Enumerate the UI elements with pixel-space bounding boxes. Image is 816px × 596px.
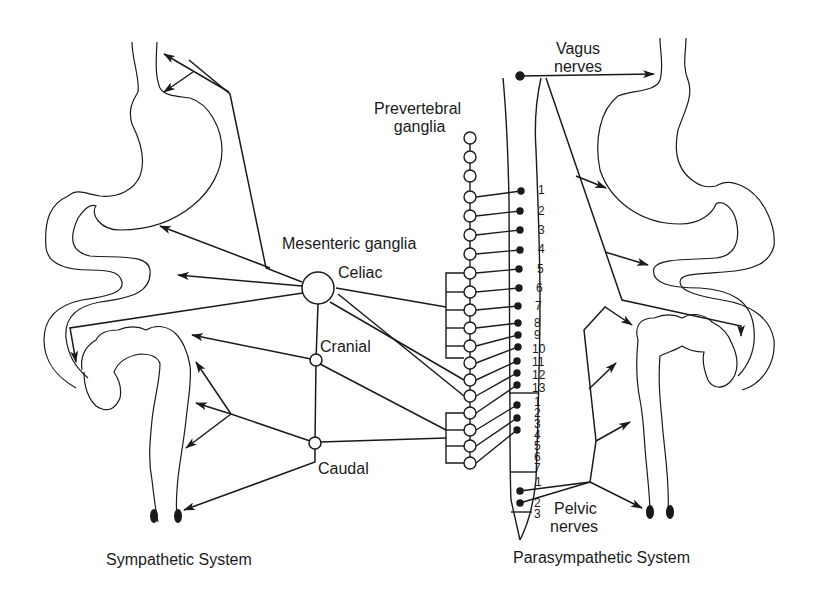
- vagus-label-line1: Vagus: [554, 40, 602, 58]
- celiac-ganglion: [302, 272, 334, 304]
- right-colon: [637, 315, 737, 519]
- ganglia-chain: [464, 132, 476, 469]
- pelvic-label-line1: Pelvic: [550, 500, 598, 518]
- right-anus-mark-1: [646, 505, 654, 519]
- left-colon: [82, 327, 191, 523]
- spinal-roots: [476, 188, 524, 463]
- nervous-system-diagram: [0, 0, 816, 596]
- segment-t10: 10: [532, 343, 545, 355]
- segment-t2: 2: [538, 205, 545, 217]
- prevertebral-ganglia-label: Prevertebral ganglia: [374, 100, 461, 136]
- segment-t3: 3: [538, 224, 545, 236]
- caudal-label: Caudal: [318, 460, 369, 478]
- vagus-nerves-label: Vagus nerves: [554, 40, 602, 76]
- segment-t1: 1: [538, 184, 545, 196]
- ganglia-brackets: [446, 273, 464, 463]
- cranial-label: Cranial: [320, 338, 371, 356]
- segment-t5: 5: [537, 263, 544, 275]
- segment-t7: 7: [535, 300, 542, 312]
- pelvic-label-line2: nerves: [550, 518, 598, 536]
- pelvic-nerves-label: Pelvic nerves: [550, 500, 598, 536]
- mesenteric-ganglia-label: Mesenteric ganglia: [282, 235, 416, 253]
- prevertebral-label-line2: ganglia: [374, 118, 461, 136]
- segment-s1: 1: [535, 476, 542, 488]
- celiac-label: Celiac: [338, 264, 382, 282]
- segment-t9: 9: [534, 329, 541, 341]
- sympathetic-system-caption: Sympathetic System: [106, 551, 252, 569]
- mesenteric-ganglia: [302, 272, 464, 449]
- segment-t13: 13: [532, 382, 545, 394]
- segment-t6: 6: [536, 282, 543, 294]
- segment-t11: 11: [532, 356, 544, 368]
- segment-l7: 7: [534, 462, 541, 474]
- caudal-ganglion: [309, 437, 321, 449]
- segment-t12: 12: [532, 369, 545, 381]
- right-stomach: [598, 38, 774, 390]
- left-anus-mark-2: [174, 509, 182, 523]
- segment-s3: 3: [534, 508, 541, 520]
- sympathetic-nerves: [70, 54, 315, 510]
- left-anus-mark-1: [150, 509, 158, 523]
- parasympathetic-system-caption: Parasympathetic System: [513, 549, 690, 567]
- parasympathetic-nerves: [516, 72, 741, 508]
- prevertebral-label-line1: Prevertebral: [374, 100, 461, 118]
- vagus-label-line2: nerves: [554, 58, 602, 76]
- segment-t4: 4: [538, 243, 545, 255]
- right-anus-mark-2: [666, 505, 674, 519]
